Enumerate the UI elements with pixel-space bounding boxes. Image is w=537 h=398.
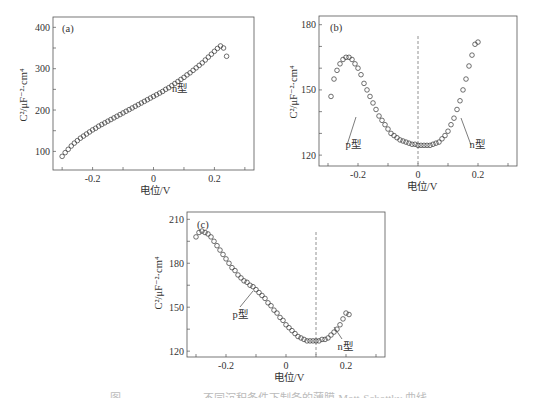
svg-text:-0.2: -0.2	[85, 173, 101, 184]
data-point	[269, 303, 274, 308]
data-point	[278, 315, 283, 320]
data-point	[407, 141, 412, 146]
svg-text:150: 150	[169, 302, 184, 313]
svg-text:0: 0	[416, 169, 421, 180]
data-point	[329, 333, 334, 338]
data-point	[446, 129, 451, 134]
data-point	[383, 122, 388, 127]
svg-text:0.2: 0.2	[208, 173, 221, 184]
data-point	[212, 239, 217, 244]
data-points	[194, 229, 352, 343]
chart-panel-c: -0.200.2120150180210 p型 n型 (c) 电位/V C²/μ…	[153, 212, 385, 383]
x-axis-label: 电位/V	[407, 180, 438, 192]
data-point	[290, 328, 295, 333]
data-point	[191, 68, 196, 73]
data-point	[194, 235, 199, 240]
data-point	[215, 46, 220, 51]
svg-text:300: 300	[35, 63, 50, 74]
p-type-leader-line	[240, 291, 253, 307]
x-axis-label: 电位/V	[274, 371, 305, 383]
data-point	[239, 276, 244, 281]
svg-text:210: 210	[169, 214, 184, 225]
data-point	[455, 107, 460, 112]
data-point	[380, 118, 385, 123]
data-point	[356, 66, 361, 71]
svg-text:120: 120	[301, 150, 316, 161]
data-point	[353, 62, 358, 67]
panel-tag: (c)	[197, 219, 209, 231]
data-point	[404, 140, 409, 145]
data-point	[335, 68, 340, 73]
data-point	[374, 107, 379, 112]
data-point	[75, 138, 80, 143]
data-point	[209, 235, 214, 240]
svg-text:180: 180	[169, 258, 184, 269]
data-point	[272, 308, 277, 313]
svg-text:-0.2: -0.2	[218, 360, 234, 371]
data-point	[329, 94, 334, 99]
data-point	[287, 325, 292, 330]
data-point	[257, 290, 262, 295]
svg-text:150: 150	[301, 84, 316, 95]
data-point	[254, 287, 259, 292]
svg-text:180: 180	[301, 19, 316, 30]
panel-tag: (a)	[62, 23, 74, 35]
data-point	[281, 318, 286, 323]
data-point	[386, 127, 391, 132]
data-point	[443, 133, 448, 138]
data-point	[260, 293, 265, 298]
x-axis-label: 电位/V	[140, 184, 171, 196]
data-point	[377, 114, 382, 119]
data-point	[230, 265, 235, 270]
svg-text:0: 0	[151, 173, 156, 184]
data-point	[275, 311, 280, 316]
svg-text:100: 100	[35, 146, 50, 157]
figure-caption: 图 ——————— 不同沉积条件下制备的薄膜 Mott-Schottky 曲线	[0, 389, 537, 398]
data-point	[332, 330, 337, 335]
data-point	[212, 49, 217, 54]
data-point	[338, 62, 343, 67]
data-point	[467, 64, 472, 69]
data-point	[263, 296, 268, 301]
data-point	[224, 54, 229, 59]
data-point	[362, 81, 367, 86]
p-type-label: p型	[232, 308, 247, 320]
data-point	[224, 257, 229, 262]
svg-text:-0.2: -0.2	[350, 169, 366, 180]
p-type-label: p型	[345, 138, 360, 150]
svg-text:0: 0	[284, 360, 289, 371]
chart-panel-a: -0.200.2100200300400 (a) n型 电位/V C²/μF⁻²…	[18, 17, 254, 196]
data-point	[215, 243, 220, 248]
figure: -0.200.2100200300400 (a) n型 电位/V C²/μF⁻²…	[0, 0, 537, 398]
svg-text:0.2: 0.2	[472, 169, 485, 180]
data-points	[60, 44, 229, 159]
data-point	[72, 141, 77, 146]
svg-text:0.2: 0.2	[340, 360, 353, 371]
data-point	[236, 273, 241, 278]
chart-panel-b: -0.200.2120150180 p型 n型 (b) 电位/V C²/μF⁻²…	[288, 16, 517, 192]
data-point	[359, 72, 364, 77]
n-type-label: n型	[337, 340, 352, 352]
data-point	[413, 142, 418, 147]
y-axis-label: C²/μF⁻²·cm⁴	[18, 68, 29, 122]
data-point	[266, 301, 271, 306]
data-point	[452, 116, 457, 121]
data-point	[470, 53, 475, 58]
data-point	[461, 88, 466, 93]
svg-text:120: 120	[169, 346, 184, 357]
panel-tag: (b)	[330, 22, 343, 34]
data-point	[203, 58, 208, 63]
data-point	[428, 143, 433, 148]
data-point	[431, 142, 436, 147]
data-point	[218, 248, 223, 253]
plot-frame	[187, 212, 385, 357]
data-point	[464, 77, 469, 82]
plot-frame	[53, 17, 254, 170]
data-point	[233, 268, 238, 273]
n-type-label: n型	[172, 82, 187, 94]
svg-text:200: 200	[35, 105, 50, 116]
svg-text:400: 400	[35, 22, 50, 33]
data-point	[293, 331, 298, 336]
y-axis-label: C²/μF⁻²·cm⁴	[153, 256, 164, 310]
y-axis-label: C²/μF⁻²·cm⁴	[288, 65, 299, 119]
